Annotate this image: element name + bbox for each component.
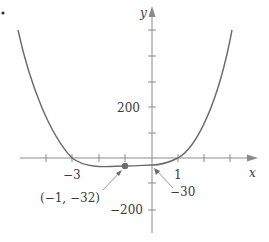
x-tick-label-neg3: −3 <box>63 168 81 182</box>
chart: y x −3 1 200 −200 (−1, −32) −30 <box>0 0 269 242</box>
min-point-label: (−1, −32) <box>40 191 100 205</box>
y-axis-label: y <box>139 6 147 20</box>
x-axis-arrow-icon <box>247 155 258 162</box>
x-axis <box>20 154 258 162</box>
function-curve <box>18 30 232 167</box>
y-tick-label-200: 200 <box>117 101 140 115</box>
bullet-dot <box>1 11 4 14</box>
y-tick-label-neg200: −200 <box>110 203 143 217</box>
y-intercept-label: −30 <box>170 185 195 199</box>
y-axis <box>148 6 156 233</box>
minimum-point <box>122 163 128 169</box>
x-tick-label-1: 1 <box>174 168 182 182</box>
x-axis-label: x <box>249 166 256 180</box>
min-point-arrow <box>103 170 122 190</box>
y-axis-arrow-icon <box>149 6 156 17</box>
